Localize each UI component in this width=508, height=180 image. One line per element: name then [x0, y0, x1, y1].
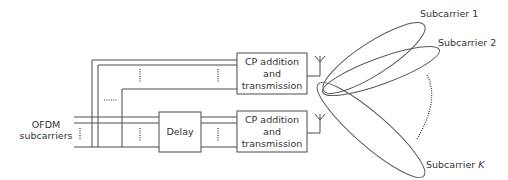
- beam-lobes: [308, 12, 444, 180]
- beam-ellipsis-arc: [417, 75, 432, 139]
- svg-text:Delay: Delay: [166, 126, 194, 137]
- antenna-icon-2: [307, 114, 325, 133]
- svg-text:subcarriers: subcarriers: [19, 130, 72, 141]
- beam-lobe-1: [315, 12, 433, 104]
- ofdm-cdd-diagram: OFDM subcarriers Delay CP addition and: [0, 0, 508, 180]
- beam-label-k: Subcarrier K: [426, 159, 485, 170]
- delay-output-lines: [201, 117, 237, 147]
- cp-transmission-block-2: CP addition and transmission: [237, 111, 307, 152]
- svg-text:OFDM: OFDM: [32, 119, 60, 130]
- beam-lobe-2: [318, 38, 443, 105]
- cp-transmission-block-1: CP addition and transmission: [237, 53, 307, 94]
- input-label: OFDM subcarriers: [19, 119, 72, 141]
- svg-text:and: and: [263, 126, 281, 137]
- beam-label-1: Subcarrier 1: [420, 8, 478, 19]
- delay-block: Delay: [159, 112, 201, 152]
- beam-label-2: Subcarrier 2: [438, 37, 496, 48]
- svg-text:CP addition: CP addition: [245, 114, 299, 125]
- antenna-icon-1: [307, 56, 325, 76]
- svg-text:transmission: transmission: [242, 80, 303, 91]
- svg-text:and: and: [263, 68, 281, 79]
- subcarrier-lines-lower: [74, 117, 159, 147]
- svg-text:CP addition: CP addition: [245, 56, 299, 67]
- svg-text:transmission: transmission: [242, 138, 303, 149]
